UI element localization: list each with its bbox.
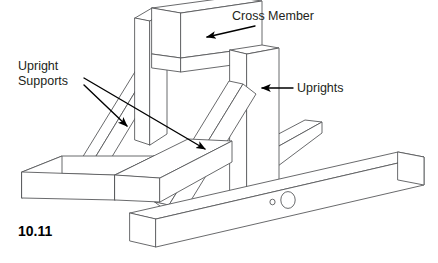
label-uprights: Uprights	[297, 81, 344, 95]
label-upright-supports-line2: Supports	[18, 74, 68, 88]
large-hole	[281, 192, 295, 209]
label-cross-member: Cross Member	[232, 9, 314, 23]
label-upright-supports-line1: Upright	[18, 59, 59, 73]
figure-container: Cross Member Upright Supports Uprights 1…	[0, 0, 438, 263]
small-hole	[270, 199, 275, 205]
figure-number: 10.11	[18, 223, 52, 239]
technical-drawing-svg: Cross Member Upright Supports Uprights 1…	[0, 0, 438, 263]
